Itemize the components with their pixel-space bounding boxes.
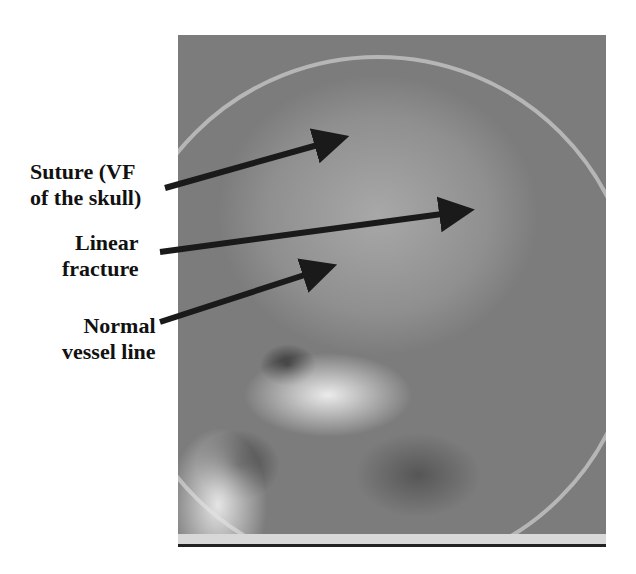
arrow-vessel-line-icon <box>160 270 320 322</box>
arrow-linear-fracture-icon <box>160 212 457 252</box>
arrow-suture-icon <box>165 141 332 188</box>
annotation-arrows <box>0 0 636 574</box>
